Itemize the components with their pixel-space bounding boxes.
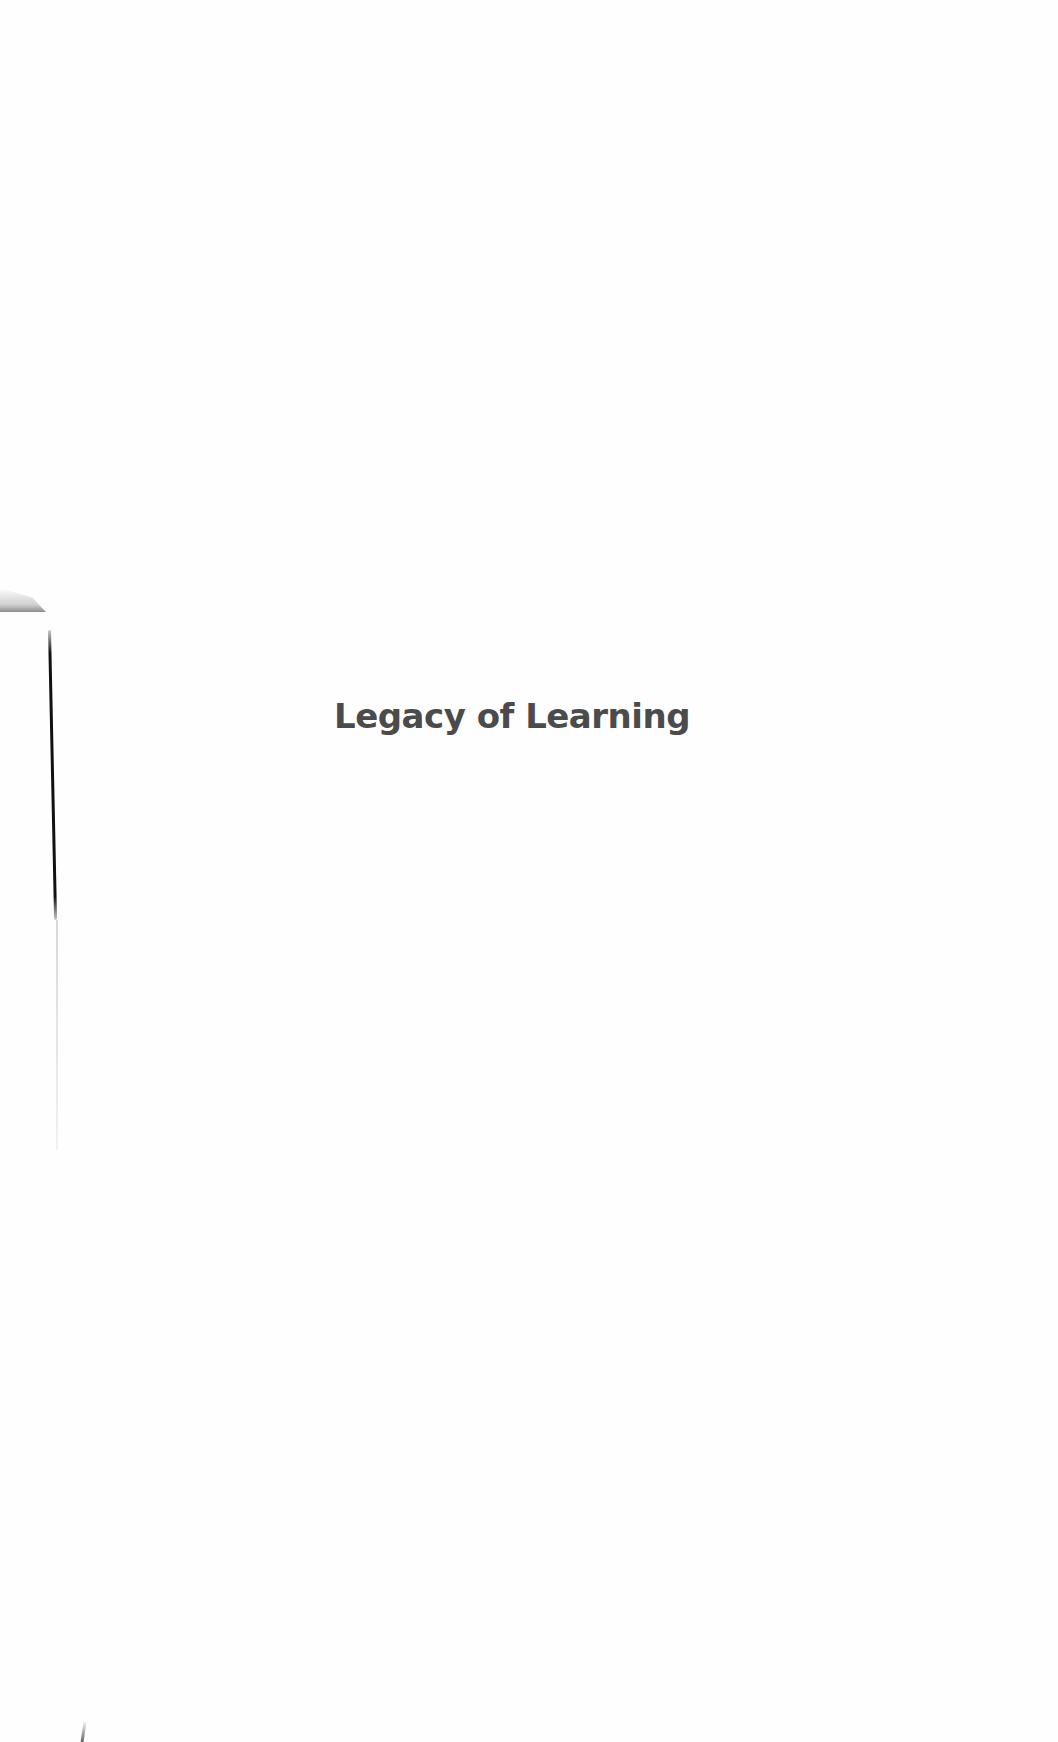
scan-shadow [0,588,46,612]
scan-edge-mark [81,1722,87,1742]
page-gutter-shadow [56,920,58,1150]
half-title: Legacy of Learning [0,696,1024,736]
book-page: Legacy of Learning [0,0,1058,1742]
page-gutter-edge [48,630,57,920]
